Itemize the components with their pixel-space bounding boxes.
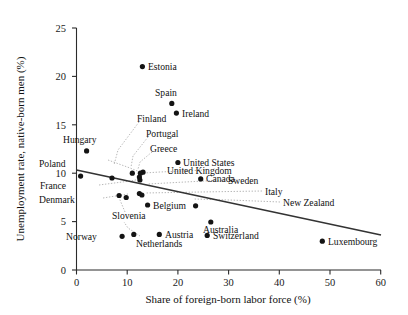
point-label-spain: Spain <box>155 87 177 98</box>
data-point-austria <box>157 232 162 237</box>
point-label-greece: Greece <box>150 143 177 154</box>
point-label-norway: Norway <box>66 231 97 242</box>
point-label-sweden: Sweden <box>228 175 259 186</box>
y-tick-label-5: 5 <box>61 216 66 227</box>
point-label-new-zealand: New Zealand <box>283 197 335 208</box>
data-point-cluster-g <box>124 195 129 200</box>
y-tick-label-10: 10 <box>56 168 67 179</box>
x-tick-label-20: 20 <box>173 277 184 288</box>
point-label-ireland: Ireland <box>182 108 209 119</box>
leader-newzealand <box>194 199 280 202</box>
leader-italy <box>145 191 262 193</box>
data-point-denmark <box>117 193 122 198</box>
point-label-poland: Poland <box>39 158 66 169</box>
point-label-estonia: Estonia <box>148 61 178 72</box>
x-axis-title: Share of foreign-born labor force (%) <box>145 293 311 306</box>
x-tick-label-40: 40 <box>274 277 285 288</box>
data-point-estonia <box>140 64 145 69</box>
y-tick-label-15: 15 <box>56 120 67 131</box>
point-label-slovenia: Slovenia <box>112 210 146 221</box>
data-point-spain <box>169 101 174 106</box>
data-point-netherlands <box>131 232 136 237</box>
y-axis-title: Unemployment rate, native-born men (%) <box>14 56 27 241</box>
data-point-unnamed-1 <box>130 171 135 176</box>
x-tick-label-10: 10 <box>122 277 133 288</box>
leader-hungary <box>108 160 140 172</box>
data-point-luxembourg <box>320 239 325 244</box>
point-label-portugal: Portugal <box>146 128 179 139</box>
point-label-finland: Finland <box>137 113 167 124</box>
point-label-denmark: Denmark <box>39 194 75 205</box>
data-point-cluster-d <box>137 177 142 182</box>
point-label-belgium: Belgium <box>153 200 187 211</box>
x-tick-label-60: 60 <box>375 277 386 288</box>
point-label-netherlands: Netherlands <box>136 238 183 249</box>
leader-finland <box>114 122 139 165</box>
data-point-newzealand <box>193 203 198 208</box>
point-label-france: France <box>40 180 66 191</box>
data-point-ireland <box>174 111 179 116</box>
x-tick-labels: 0 10 20 30 40 50 60 <box>74 277 386 288</box>
data-point-poland <box>78 174 83 179</box>
data-point-hungary <box>84 148 89 153</box>
point-label-hungary: Hungary <box>63 134 97 145</box>
y-tick-label-0: 0 <box>61 265 66 276</box>
y-tick-labels: 25 20 15 10 5 0 <box>56 23 67 276</box>
x-tick-label-0: 0 <box>74 277 79 288</box>
point-label-italy: Italy <box>265 186 283 197</box>
point-label-switzerland: Switzerland <box>213 230 259 241</box>
data-point-cluster-f <box>139 192 144 197</box>
data-point-norway <box>120 234 125 239</box>
x-tick-label-30: 30 <box>223 277 234 288</box>
point-label-group: Estonia Spain Ireland Finland Portugal G… <box>39 61 378 249</box>
y-tick-label-20: 20 <box>56 71 67 82</box>
chart-canvas: 25 20 15 10 5 0 0 10 20 30 40 50 60 Shar… <box>0 0 408 315</box>
y-tick-label-25: 25 <box>56 23 67 34</box>
leader-greece <box>138 152 152 169</box>
x-tick-label-50: 50 <box>325 277 336 288</box>
data-point-belgium <box>145 202 150 207</box>
data-point-canada <box>198 176 203 181</box>
point-label-luxembourg: Luxembourg <box>328 236 378 247</box>
x-tick-group <box>77 270 381 275</box>
scatter-chart-figure: 25 20 15 10 5 0 0 10 20 30 40 50 60 Shar… <box>0 0 408 315</box>
data-point-france <box>109 175 114 180</box>
